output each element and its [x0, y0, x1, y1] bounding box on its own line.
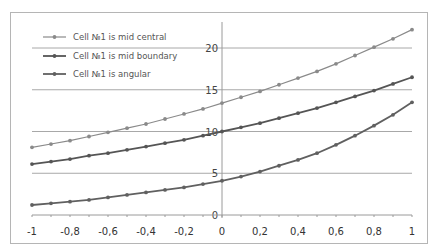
- y-tick-label: 20: [205, 43, 218, 54]
- data-point: [68, 139, 72, 143]
- data-point: [220, 130, 224, 134]
- data-point: [87, 198, 91, 202]
- legend-label: Cell №1 is angular: [73, 69, 151, 79]
- data-point: [106, 196, 110, 200]
- legend-marker-icon: [53, 72, 57, 76]
- data-point: [87, 135, 91, 139]
- data-point: [334, 143, 338, 147]
- data-point: [410, 75, 414, 79]
- data-point: [315, 69, 319, 73]
- data-point: [68, 200, 72, 204]
- chart-container: 05101520-1-0,8-0,6-0,4-0,200,20,40,60,81…: [0, 0, 434, 250]
- data-point: [201, 134, 205, 138]
- data-point: [353, 95, 357, 99]
- data-point: [239, 175, 243, 179]
- data-point: [315, 106, 319, 110]
- data-point: [372, 45, 376, 49]
- data-point: [163, 141, 167, 145]
- data-point: [49, 160, 53, 164]
- legend-label: Cell №1 is mid boundary: [73, 51, 177, 61]
- x-tick-label: 0: [219, 226, 225, 237]
- data-point: [125, 193, 129, 197]
- data-point: [182, 138, 186, 142]
- data-point: [410, 28, 414, 32]
- x-tick-label: 0,8: [366, 226, 382, 237]
- legend-marker-icon: [53, 54, 57, 58]
- data-point: [144, 191, 148, 195]
- data-point: [30, 145, 34, 149]
- data-point: [87, 154, 91, 158]
- data-point: [106, 130, 110, 134]
- data-point: [125, 148, 129, 152]
- legend-label: Cell №1 is mid central: [73, 32, 166, 42]
- line-chart: 05101520-1-0,8-0,6-0,4-0,200,20,40,60,81…: [0, 0, 434, 250]
- data-point: [201, 182, 205, 186]
- data-point: [163, 188, 167, 192]
- chart-frame: [11, 13, 428, 244]
- data-point: [258, 170, 262, 174]
- data-point: [125, 126, 129, 130]
- data-point: [334, 100, 338, 104]
- x-tick-label: -1: [27, 226, 37, 237]
- data-point: [49, 201, 53, 205]
- data-point: [220, 101, 224, 105]
- data-point: [391, 82, 395, 86]
- x-tick-label: 0,4: [290, 226, 306, 237]
- x-tick-label: 0,6: [328, 226, 344, 237]
- legend-marker-icon: [53, 35, 57, 39]
- data-point: [391, 37, 395, 41]
- data-point: [163, 117, 167, 121]
- y-tick-label: 5: [212, 168, 218, 179]
- data-point: [258, 90, 262, 94]
- data-point: [372, 89, 376, 93]
- data-point: [239, 125, 243, 129]
- data-point: [296, 158, 300, 162]
- x-tick-label: 0,2: [252, 226, 268, 237]
- data-point: [353, 134, 357, 138]
- data-point: [106, 151, 110, 155]
- data-point: [30, 162, 34, 166]
- data-point: [391, 113, 395, 117]
- data-point: [372, 124, 376, 128]
- data-point: [334, 62, 338, 66]
- data-point: [296, 111, 300, 115]
- y-tick-label: 15: [205, 85, 218, 96]
- data-point: [239, 95, 243, 99]
- data-point: [30, 203, 34, 207]
- x-tick-label: 1: [409, 226, 415, 237]
- data-point: [144, 122, 148, 126]
- data-point: [296, 76, 300, 80]
- data-point: [277, 164, 281, 168]
- data-point: [277, 116, 281, 120]
- x-tick-label: -0,6: [98, 226, 118, 237]
- data-point: [258, 121, 262, 125]
- data-point: [182, 186, 186, 190]
- data-point: [410, 100, 414, 104]
- x-tick-label: -0,8: [60, 226, 80, 237]
- data-point: [277, 83, 281, 87]
- data-point: [49, 142, 53, 146]
- data-point: [68, 157, 72, 161]
- x-tick-label: -0,2: [174, 226, 194, 237]
- data-point: [201, 107, 205, 111]
- data-point: [182, 112, 186, 116]
- data-point: [144, 145, 148, 149]
- data-point: [353, 54, 357, 58]
- data-point: [315, 151, 319, 155]
- x-tick-label: -0,4: [136, 226, 156, 237]
- data-point: [220, 179, 224, 183]
